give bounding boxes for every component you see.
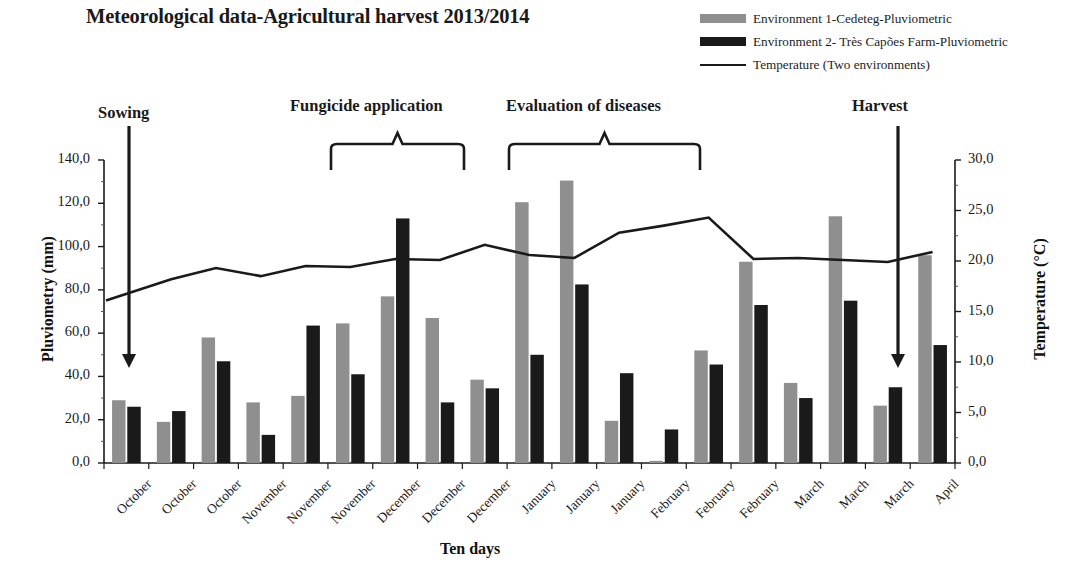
bar-env1 [381,296,394,463]
bar-env1 [470,380,483,463]
bar-env1 [157,422,170,463]
y-tick-label-left: 60,0 [34,323,90,340]
bar-env1 [829,216,842,463]
chart-root: Meteorological data-Agricultural harvest… [0,0,1067,570]
bar-env2 [351,374,364,463]
bar-env1 [112,400,125,463]
y-tick-label-right: 5,0 [968,403,1024,420]
bar-env1 [605,421,618,463]
bar-env2 [396,218,409,463]
bar-env1 [426,318,439,463]
bar-env1 [873,406,886,463]
y-tick-label-left: 0,0 [34,453,90,470]
bar-env2 [127,407,140,463]
bar-env1 [784,383,797,463]
bar-env2 [486,388,499,463]
y-tick-label-right: 25,0 [968,201,1024,218]
bar-env2 [754,305,767,463]
bar-env2 [306,326,319,463]
bar-env1 [560,181,573,463]
bracket-fungicide-application [331,133,464,170]
bar-env2 [575,284,588,463]
bar-env2 [530,355,543,463]
y-tick-label-left: 120,0 [34,193,90,210]
y-tick-label-left: 40,0 [34,366,90,383]
y-tick-label-right: 15,0 [968,302,1024,319]
arrow-harvest-head [891,354,905,368]
arrow-sowing-head [122,354,136,368]
bar-env1 [202,337,215,463]
bar-env2 [844,301,857,463]
y-tick-label-left: 100,0 [34,237,90,254]
bar-env2 [441,402,454,463]
bar-env1 [918,255,931,463]
bar-env1 [291,396,304,463]
y-tick-label-right: 20,0 [968,251,1024,268]
y-tick-label-left: 20,0 [34,410,90,427]
bar-env1 [336,323,349,463]
y-tick-label-right: 10,0 [968,352,1024,369]
bar-env1 [515,202,528,463]
bar-env2 [262,435,275,463]
y-tick-label-left: 80,0 [34,280,90,297]
bar-env1 [694,350,707,463]
y-tick-label-left: 140,0 [34,150,90,167]
bar-env2 [172,411,185,463]
bar-env2 [889,387,902,463]
bar-env2 [620,373,633,463]
bar-env1 [246,402,259,463]
y-tick-label-right: 0,0 [968,453,1024,470]
bar-env2 [665,429,678,463]
bar-env1 [650,461,663,463]
bar-env2 [217,361,230,463]
bracket-evaluation-of-diseases [509,133,700,170]
bar-env2 [799,398,812,463]
bar-env1 [739,262,752,463]
bar-env2 [934,345,947,463]
bar-env2 [710,365,723,463]
y-tick-label-right: 30,0 [968,150,1024,167]
